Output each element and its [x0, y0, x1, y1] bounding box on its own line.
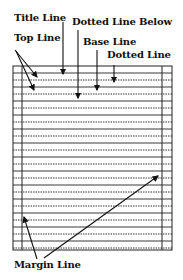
arrow-margin-line-left	[24, 217, 37, 259]
arrow-margin-line-right	[44, 176, 158, 258]
label-dotted-line: Dotted Line	[107, 49, 171, 60]
label-base-line: Base Line	[83, 36, 136, 47]
ruled-lines	[13, 73, 172, 248]
label-top-line: Top Line	[14, 32, 60, 43]
label-title-line: Title Line	[14, 12, 66, 23]
label-dotted-line-below: Dotted Line Below	[72, 16, 172, 27]
label-margin-line: Margin Line	[14, 259, 81, 270]
